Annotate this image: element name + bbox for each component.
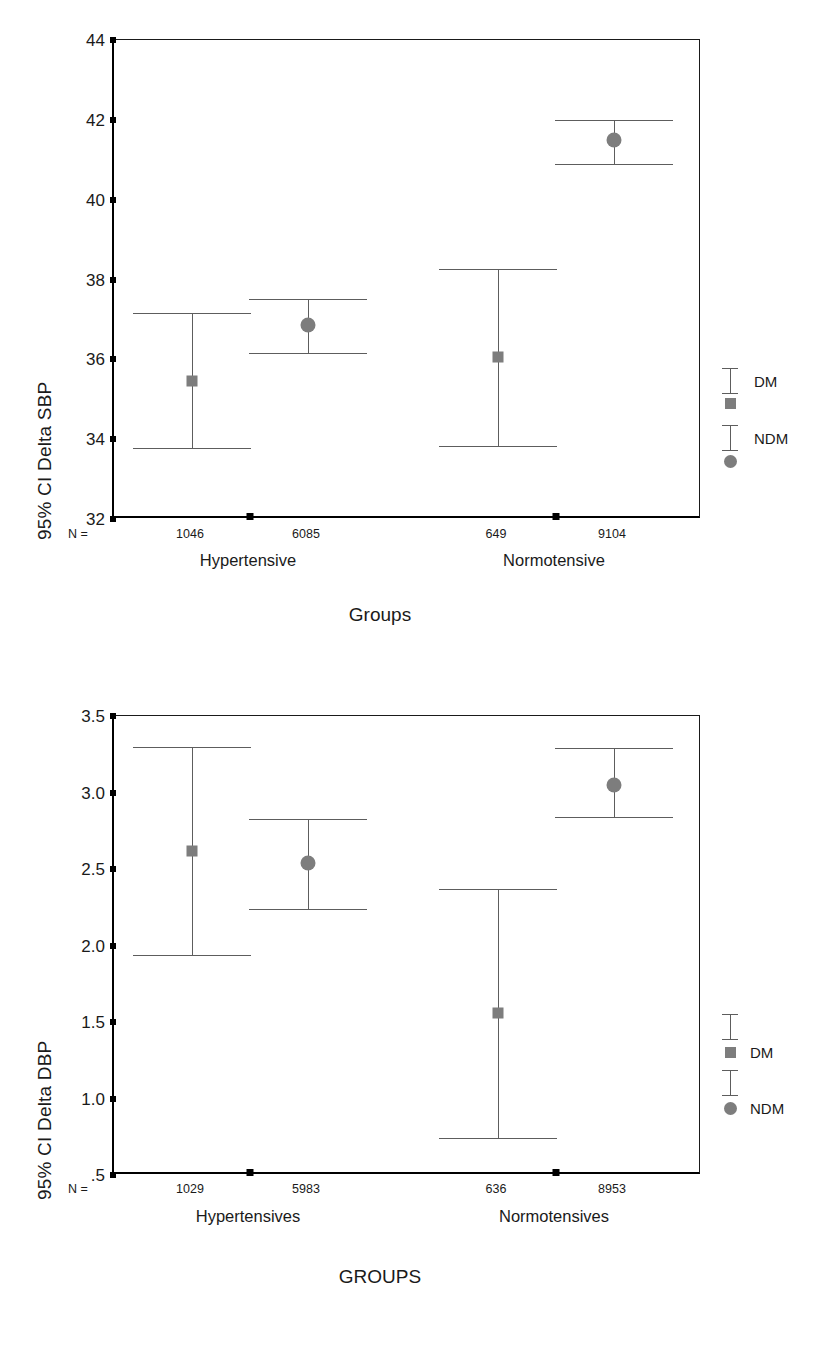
legend-label: DM: [754, 373, 777, 390]
y-tick-label: 44: [86, 32, 105, 49]
data-point-marker-circle: [301, 318, 316, 333]
error-bar-lower-cap: [555, 817, 673, 818]
error-bar-upper-cap: [555, 120, 673, 121]
error-bar-upper-cap: [555, 748, 673, 749]
y-tick-label: 40: [86, 191, 105, 208]
plot-area-sbp: 32343638404244: [112, 39, 700, 518]
data-point-marker-square: [187, 845, 198, 856]
y-tick-mark: [110, 790, 116, 796]
n-value: 1029: [176, 1182, 204, 1196]
y-tick-label: 2.5: [81, 861, 105, 878]
error-bar-icon: [722, 425, 738, 451]
y-tick-label: 3.0: [81, 784, 105, 801]
error-bar-upper-cap: [133, 747, 251, 748]
error-bar-upper-cap: [133, 313, 251, 314]
error-bar-lower-cap: [439, 446, 557, 447]
y-tick-label: 36: [86, 351, 105, 368]
chart-sbp-panel: 95% CI Delta SBP 32343638404244 N =10466…: [0, 0, 824, 660]
n-value: 9104: [598, 527, 626, 541]
group-label: Hypertensives: [196, 1207, 301, 1226]
legend-marker-row: [722, 455, 737, 468]
y-tick-label: 2.0: [81, 937, 105, 954]
y-tick-mark: [110, 117, 116, 123]
error-bar-icon: [722, 1070, 738, 1096]
y-tick-mark: [110, 1019, 116, 1025]
plot-area-dbp: .51.01.52.02.53.03.5: [112, 715, 700, 1174]
legend-marker-square-icon: [725, 1047, 736, 1058]
legend-errorbar-symbol-row: DM: [722, 368, 777, 394]
x-axis-title: Groups: [349, 604, 411, 626]
y-tick-label: 1.0: [81, 1090, 105, 1107]
y-tick-mark: [110, 277, 116, 283]
legend-marker-circle-icon: [724, 1102, 737, 1115]
y-tick-mark: [110, 866, 116, 872]
error-bar-icon: [722, 1014, 738, 1040]
data-point-marker-square: [493, 1007, 504, 1018]
error-bar-lower-cap: [249, 909, 367, 910]
data-point-marker-circle: [301, 855, 316, 870]
data-point-marker-circle: [607, 777, 622, 792]
x-tick-mark: [553, 513, 560, 520]
error-bar-upper-cap: [249, 299, 367, 300]
n-value: 1046: [176, 527, 204, 541]
legend-marker-row: DM: [722, 1044, 773, 1061]
y-tick-mark: [110, 1172, 116, 1178]
legend-marker-square-icon: [725, 398, 736, 409]
legend-marker-circle-icon: [724, 455, 737, 468]
legend-errorbar-symbol-row: NDM: [722, 425, 788, 451]
y-axis-title: 95% CI Delta SBP: [34, 382, 56, 540]
data-point-marker-square: [493, 352, 504, 363]
chart-dbp-panel: 95% CI Delta DBP .51.01.52.02.53.03.5 N …: [0, 670, 824, 1350]
y-tick-mark: [110, 516, 116, 522]
legend-label: NDM: [754, 430, 788, 447]
n-value: 649: [486, 527, 507, 541]
y-tick-label: 42: [86, 111, 105, 128]
n-value: 8953: [598, 1182, 626, 1196]
n-equals-label: N =: [68, 1182, 88, 1196]
error-bar-lower-cap: [439, 1138, 557, 1139]
error-bar-lower-cap: [133, 448, 251, 449]
error-bar-upper-cap: [249, 819, 367, 820]
error-bar-lower-cap: [133, 955, 251, 956]
y-axis-title: 95% CI Delta DBP: [34, 1041, 56, 1201]
y-tick-mark: [110, 713, 116, 719]
group-label: Normotensives: [499, 1207, 609, 1226]
x-axis-title: GROUPS: [339, 1266, 421, 1288]
data-point-marker-square: [187, 376, 198, 387]
legend-marker-row: [722, 398, 736, 409]
error-bar-icon: [722, 368, 738, 394]
legend-label: NDM: [750, 1100, 784, 1117]
n-equals-label: N =: [68, 527, 88, 541]
x-tick-mark: [247, 513, 254, 520]
y-tick-label: 34: [86, 431, 105, 448]
n-value: 636: [486, 1182, 507, 1196]
n-value: 5983: [292, 1182, 320, 1196]
x-tick-mark: [553, 1169, 560, 1176]
y-tick-mark: [110, 37, 116, 43]
y-tick-label: 38: [86, 271, 105, 288]
data-point-marker-circle: [607, 132, 622, 147]
legend-marker-row: NDM: [722, 1100, 784, 1117]
legend-label: DM: [750, 1044, 773, 1061]
y-tick-mark: [110, 436, 116, 442]
y-tick-mark: [110, 197, 116, 203]
error-bar-lower-cap: [249, 353, 367, 354]
y-tick-mark: [110, 356, 116, 362]
x-tick-mark: [247, 1169, 254, 1176]
y-tick-label: 1.5: [81, 1014, 105, 1031]
error-bar-upper-cap: [439, 889, 557, 890]
error-bar-upper-cap: [439, 269, 557, 270]
legend-errorbar-symbol-row: [722, 1014, 738, 1040]
group-label: Normotensive: [503, 551, 605, 570]
y-tick-mark: [110, 1096, 116, 1102]
error-bar-lower-cap: [555, 164, 673, 165]
y-tick-mark: [110, 943, 116, 949]
legend-errorbar-symbol-row: [722, 1070, 738, 1096]
group-label: Hypertensive: [200, 551, 296, 570]
y-tick-label: 32: [86, 511, 105, 528]
y-tick-label: .5: [91, 1167, 105, 1184]
n-value: 6085: [292, 527, 320, 541]
y-tick-label: 3.5: [81, 708, 105, 725]
